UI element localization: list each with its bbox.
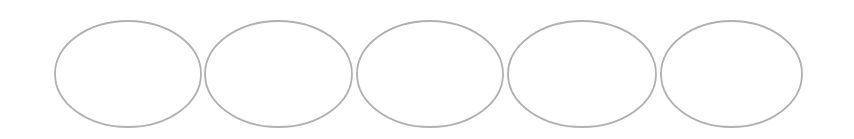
ellipse-row-diagram xyxy=(0,0,854,139)
ellipse-5 xyxy=(661,21,802,127)
diagram-canvas xyxy=(0,0,854,139)
ellipse-2 xyxy=(205,21,352,127)
ellipse-1 xyxy=(55,21,201,127)
ellipse-3 xyxy=(357,21,503,127)
ellipse-4 xyxy=(508,21,656,127)
